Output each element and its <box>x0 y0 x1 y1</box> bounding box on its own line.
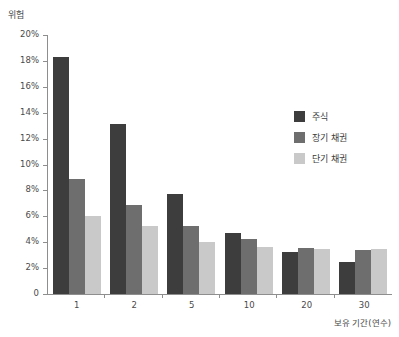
y-axis-tick-label: 10% <box>20 159 39 169</box>
y-axis-tick-mark <box>43 190 47 191</box>
x-axis-tick-label: 30 <box>336 300 394 310</box>
legend-entry: 장기 채권 <box>294 127 347 148</box>
x-axis-title: 보유 기간(연수) <box>334 316 391 328</box>
y-axis-tick-mark <box>43 61 47 62</box>
bar <box>69 179 85 294</box>
x-axis-tick-label: 20 <box>278 300 336 310</box>
x-axis-tick-mark <box>162 294 163 298</box>
bar <box>225 233 241 294</box>
x-axis-tick-mark <box>276 294 277 298</box>
bar <box>257 247 273 294</box>
y-axis-tick-mark <box>43 35 47 36</box>
y-axis-title: 위험 <box>8 8 24 21</box>
bar <box>183 226 199 294</box>
bar-group <box>163 35 220 294</box>
y-axis-tick-mark <box>43 216 47 217</box>
y-axis-tick-label: 4% <box>26 236 40 246</box>
legend-swatch <box>294 111 305 122</box>
x-axis-tick-labels: 125102030 <box>48 300 393 310</box>
x-axis-tick-mark <box>219 294 220 298</box>
legend-entry: 단기 채권 <box>294 148 347 169</box>
legend-swatch <box>294 153 305 164</box>
y-axis-tick-label: 12% <box>20 133 39 143</box>
y-axis-tick-mark <box>43 165 47 166</box>
bar <box>371 249 387 294</box>
y-axis-tick-label: 16% <box>20 81 39 91</box>
y-axis-tick-label: 20% <box>20 29 39 39</box>
legend: 주식장기 채권단기 채권 <box>294 106 347 169</box>
bar <box>298 248 314 294</box>
x-axis-tick-label: 1 <box>48 300 106 310</box>
y-axis-tick-label: 8% <box>26 184 40 194</box>
y-axis-tick-label: 0 <box>34 288 39 298</box>
bar <box>110 124 126 294</box>
bar <box>339 262 355 294</box>
bar-chart: 위험 02%4%6%8%10%12%14%16%18%20% 125102030… <box>0 0 399 337</box>
y-axis-tick-mark <box>43 242 47 243</box>
bar <box>241 239 257 294</box>
bar <box>282 252 298 294</box>
bar <box>85 216 101 294</box>
bar-group <box>220 35 277 294</box>
y-axis-tick-label: 6% <box>26 210 40 220</box>
y-axis-tick-mark <box>43 268 47 269</box>
y-axis-tick-label: 18% <box>20 55 39 65</box>
legend-label: 장기 채권 <box>312 131 347 144</box>
x-axis-tick-mark <box>334 294 335 298</box>
y-axis-tick-mark <box>43 87 47 88</box>
bar <box>355 250 371 294</box>
legend-swatch <box>294 132 305 143</box>
legend-label: 주식 <box>312 110 328 123</box>
bar <box>199 242 215 294</box>
bar-group <box>48 35 105 294</box>
x-axis-tick-mark <box>104 294 105 298</box>
bar <box>314 249 330 294</box>
bar-group <box>105 35 162 294</box>
bar <box>142 226 158 294</box>
y-axis-tick-label: 2% <box>26 262 40 272</box>
x-axis-tick-label: 10 <box>221 300 279 310</box>
legend-label: 단기 채권 <box>312 152 347 165</box>
bar <box>126 205 142 294</box>
bar <box>53 57 69 294</box>
legend-entry: 주식 <box>294 106 347 127</box>
x-axis-tick-label: 2 <box>106 300 164 310</box>
y-axis-tick-label: 14% <box>20 107 39 117</box>
y-axis-tick-mark <box>43 294 47 295</box>
x-axis-tick-label: 5 <box>163 300 221 310</box>
bar <box>167 194 183 294</box>
y-axis-tick-mark <box>43 113 47 114</box>
y-axis-tick-mark <box>43 139 47 140</box>
